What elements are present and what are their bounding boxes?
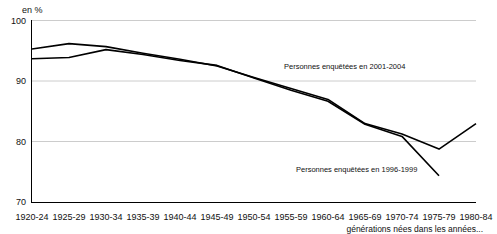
x-axis-caption: générations nées dans les années...: [346, 224, 483, 234]
line-series-2001-2004: [32, 44, 476, 150]
annotation-series-1996-1999: Personnes enquêtées en 1996-1999: [296, 165, 417, 174]
x-tick-1980-84: 1980-84: [450, 212, 497, 222]
annotation-series-2001-2004: Personnes enquêtées en 2001-2004: [284, 62, 405, 71]
